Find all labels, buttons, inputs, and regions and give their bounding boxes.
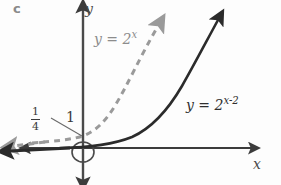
axis-group	[28, 10, 251, 180]
quarter-denominator: 4	[31, 121, 40, 133]
y-intercept-label-quarter: 1 4	[31, 106, 40, 132]
y-intercept-label-one: 1	[66, 110, 75, 124]
equation-shifted-base: y = 2	[186, 97, 223, 113]
equation-shifted-exponent: x-2	[223, 95, 238, 106]
equation-label-shifted-exponential: y = 2x-2	[186, 96, 239, 112]
part-label: c	[13, 2, 21, 15]
x-axis-label: x	[253, 157, 261, 171]
exponential-graph-figure: c y x y = 2x y = 2x-2 1 1 4	[0, 0, 281, 185]
quarter-numerator: 1	[31, 106, 40, 118]
parent-exponential-left-arrow	[14, 142, 45, 146]
shifted-exponential-left-arrow	[10, 148, 70, 151]
equation-label-parent-exponential: y = 2x	[94, 30, 137, 46]
equation-parent-exponent: x	[131, 29, 137, 40]
equation-parent-base: y = 2	[94, 31, 131, 47]
y-axis-label: y	[85, 2, 93, 16]
graph-canvas	[0, 0, 281, 185]
